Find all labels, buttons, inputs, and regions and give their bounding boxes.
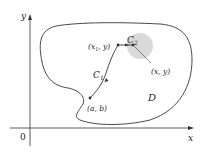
origin-label: 0 bbox=[20, 132, 26, 142]
diagram-canvas: y x 0 D C2 C1 (x1, y) (x, y) (a, b) bbox=[0, 0, 204, 159]
y-axis-label: y bbox=[20, 11, 27, 21]
point-x1-y bbox=[117, 44, 120, 47]
c1-label: C1 bbox=[93, 70, 104, 81]
x-y-label: (x, y) bbox=[151, 67, 170, 76]
x1-y-label: (x1, y) bbox=[88, 42, 110, 52]
x-axis-label: x bbox=[188, 133, 193, 143]
a-b-label: (a, b) bbox=[87, 104, 107, 113]
c1-direction-arrow-icon bbox=[105, 78, 109, 82]
point-a-b bbox=[89, 97, 92, 100]
diagram-svg: y x 0 D C2 C1 (x1, y) (x, y) (a, b) bbox=[0, 0, 204, 159]
region-label: D bbox=[147, 92, 156, 103]
x-axis-arrow-icon bbox=[188, 126, 194, 130]
y-axis-arrow-icon bbox=[28, 14, 32, 20]
